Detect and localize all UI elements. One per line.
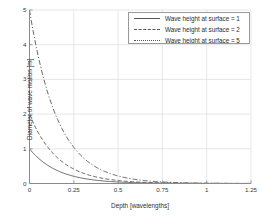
y-tick-label: 1: [19, 146, 27, 152]
y-tick-label: 5: [19, 7, 27, 13]
x-axis-title: Depth [wavelengths]: [111, 203, 169, 209]
legend-label-1: Wave height at surface = 2: [165, 25, 240, 35]
y-tick-label: 4: [19, 42, 27, 48]
chart-figure: 00.250.50.7511.25 012345 Depth [waveleng…: [0, 0, 261, 219]
legend-entry-1: Wave height at surface = 2: [129, 25, 249, 35]
x-tick-label: 0.25: [68, 187, 80, 193]
x-tick-label: 0: [28, 187, 31, 193]
legend-line-sample-dashdot: [134, 40, 160, 42]
x-tick-label: 0.75: [156, 187, 168, 193]
legend-box: Wave height at surface = 1 Wave height a…: [128, 12, 250, 44]
y-tick-label: 0: [19, 180, 27, 186]
y-axis-title: Diameter of wave motion [m]: [27, 39, 33, 159]
legend-label-0: Wave height at surface = 1: [165, 14, 240, 24]
x-tick-label: 1: [205, 187, 208, 193]
legend-line-sample-dashed: [134, 29, 160, 31]
x-tick-label: 0.5: [114, 187, 123, 193]
series-line-0: [30, 149, 252, 184]
legend-entry-0: Wave height at surface = 1: [129, 14, 249, 24]
x-tick-label: 1.25: [245, 187, 257, 193]
legend-entry-2: Wave height at surface = 5: [129, 36, 249, 44]
legend-line-sample-solid: [134, 18, 160, 20]
legend-label-2: Wave height at surface = 5: [165, 36, 240, 44]
